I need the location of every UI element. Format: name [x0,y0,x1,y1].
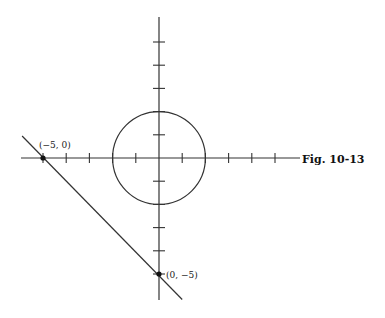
point-marker [156,271,161,276]
figure-caption: Fig. 10-13 [302,153,365,166]
point-label: (0, −5) [166,270,198,280]
points: (−5, 0)(0, −5) [39,140,198,280]
axes [21,17,300,300]
figure-diagram: (−5, 0)(0, −5) Fig. 10-13 [0,0,385,318]
point-label: (−5, 0) [39,140,71,150]
point-marker [40,155,45,160]
